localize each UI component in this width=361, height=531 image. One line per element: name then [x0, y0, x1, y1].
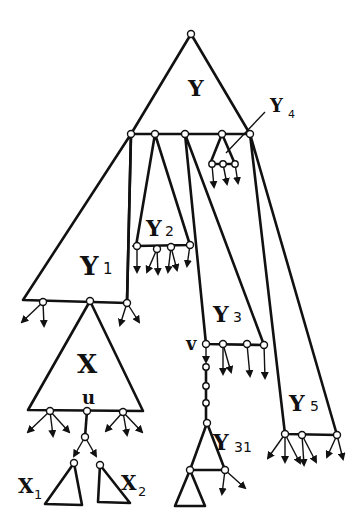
svg-text:2: 2 — [165, 223, 174, 239]
svg-text:Y: Y — [269, 95, 284, 116]
svg-text:3: 3 — [233, 309, 242, 325]
label-Y4: Y 4 — [269, 95, 295, 121]
label-Y31: Y 31 — [212, 429, 252, 455]
label-X2: X 2 — [121, 471, 146, 499]
svg-text:Y: Y — [212, 429, 229, 455]
label-Y: Y — [187, 75, 204, 101]
svg-text:X: X — [121, 471, 137, 495]
svg-text:31: 31 — [234, 439, 252, 455]
svg-text:Y: Y — [145, 215, 162, 241]
svg-text:4: 4 — [288, 108, 295, 121]
svg-text:Y: Y — [212, 301, 229, 327]
svg-text:Y: Y — [288, 390, 305, 416]
label-u: u — [82, 387, 95, 408]
arrows — [22, 134, 343, 494]
svg-text:X: X — [18, 474, 34, 498]
triangle-X1 — [45, 463, 82, 505]
label-Y2: Y 2 — [145, 215, 174, 241]
label-Y5: Y 5 — [288, 390, 319, 416]
svg-text:1: 1 — [34, 487, 42, 502]
tree-diagram: Y Y 4 Y 1 Y 2 Y 3 Y 5 Y 31 X u v X 1 X 2 — [0, 0, 361, 531]
triangle-Y1 — [23, 134, 131, 303]
label-v: v — [185, 333, 197, 354]
label-Y1: Y 1 — [79, 251, 113, 281]
triangle-Y2 — [136, 134, 190, 246]
svg-text:5: 5 — [310, 398, 319, 414]
label-X1: X 1 — [18, 474, 42, 502]
svg-text:1: 1 — [103, 260, 113, 278]
svg-text:Y: Y — [79, 251, 99, 281]
svg-text:2: 2 — [138, 484, 146, 499]
label-X: X — [77, 349, 98, 379]
label-Y3: Y 3 — [212, 301, 242, 327]
